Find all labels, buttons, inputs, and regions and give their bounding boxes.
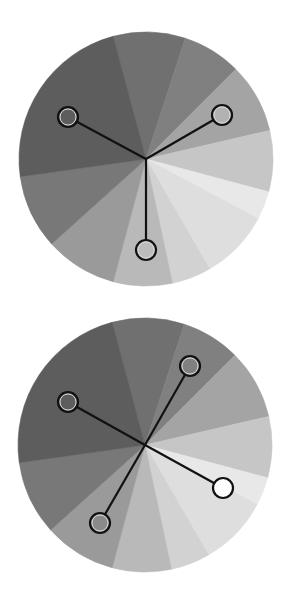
color-marker bbox=[213, 478, 233, 498]
color-marker bbox=[58, 392, 78, 412]
color-marker bbox=[212, 105, 232, 125]
color-marker bbox=[90, 513, 110, 533]
triad-wheel bbox=[19, 32, 273, 286]
color-marker bbox=[136, 240, 156, 260]
tetrad-wheel bbox=[18, 318, 272, 572]
color-marker bbox=[58, 107, 78, 127]
color-marker bbox=[180, 356, 200, 376]
triad-color-wheel bbox=[0, 0, 290, 606]
